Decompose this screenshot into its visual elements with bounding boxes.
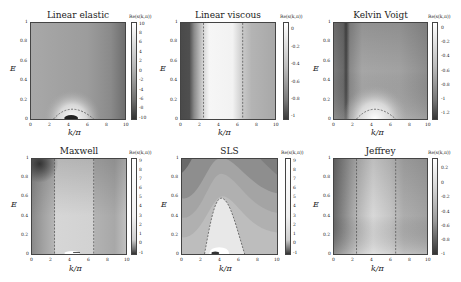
cbar-tick: 0.2 [441, 166, 448, 171]
colorbar-label: Re(s(k,π)) [428, 14, 451, 19]
x-tick: 8 [106, 258, 109, 263]
y-tick: 0.6 [170, 59, 177, 64]
x-tick: 10 [425, 123, 431, 128]
x-tick: 10 [273, 123, 279, 128]
y-tick: 0.4 [21, 214, 28, 219]
cbar-tick: 0 [139, 69, 142, 74]
y-tick: 0.8 [323, 175, 330, 180]
y-axis-label: E [161, 200, 167, 209]
y-tick: 0.4 [171, 214, 178, 219]
x-tick: 4 [68, 258, 71, 263]
x-tick: 8 [105, 123, 108, 128]
x-tick: 6 [237, 258, 240, 263]
y-tick: 0.4 [20, 78, 27, 83]
cbar-tick: 6 [139, 40, 142, 45]
cbar-tick: 1 [293, 232, 296, 237]
y-tick: 0 [328, 252, 331, 257]
x-tick: 10 [124, 258, 130, 263]
cbar-tick: 7 [139, 177, 142, 182]
y-tick: 0.2 [323, 233, 330, 238]
y-tick: 0 [25, 117, 28, 122]
colorbar [432, 22, 438, 120]
cbar-tick: 10 [139, 22, 145, 27]
y-tick: 0.2 [323, 98, 330, 103]
cbar-tick: 8 [293, 168, 296, 173]
cbar-tick: 9 [293, 159, 296, 164]
x-tick: 6 [86, 123, 89, 128]
colorbar-label: Re(s(k,π)) [129, 14, 152, 19]
heatmap-plot [333, 158, 428, 255]
x-tick: 8 [256, 258, 259, 263]
x-tick: 6 [236, 123, 239, 128]
y-tick: 0.6 [20, 59, 27, 64]
y-tick: 0.8 [323, 39, 330, 44]
y-tick: 0.4 [323, 78, 330, 83]
cbar-tick: 0 [441, 181, 444, 186]
y-tick: 1 [328, 156, 331, 161]
cbar-tick: -1 [441, 252, 445, 257]
panel-title: Linear viscous [180, 10, 276, 20]
x-axis-label: k/π [218, 128, 231, 137]
x-tick: 2 [49, 258, 52, 263]
cbar-tick: -0.6 [291, 80, 300, 85]
panel-title: Maxwell [31, 146, 127, 156]
y-tick: 0.8 [171, 175, 178, 180]
cbar-tick: -10 [139, 116, 146, 121]
cbar-tick: -1 [291, 114, 295, 119]
y-tick: 0.2 [20, 98, 27, 103]
colorbar-label: Re(s(k,π)) [428, 150, 451, 155]
y-tick: 0.6 [323, 59, 330, 64]
y-tick: 0.2 [170, 98, 177, 103]
panel-title: Jeffrey [333, 146, 428, 156]
x-tick: 8 [408, 258, 411, 263]
colorbar-label: Re(s(k,π)) [280, 14, 303, 19]
y-tick: 0.4 [323, 214, 330, 219]
cbar-tick: 5 [139, 195, 142, 200]
x-tick: 8 [255, 123, 258, 128]
x-tick: 4 [67, 123, 70, 128]
x-tick: 10 [425, 258, 431, 263]
colorbar [283, 22, 289, 120]
y-tick: 0.8 [170, 39, 177, 44]
y-tick: 0.6 [171, 194, 178, 199]
x-tick: 6 [389, 123, 392, 128]
cbar-tick: -0.2 [441, 40, 450, 45]
cbar-tick: 7 [293, 177, 296, 182]
y-tick: 0 [26, 252, 29, 257]
x-axis-label: k/π [219, 264, 232, 273]
cbar-tick: 8 [139, 31, 142, 36]
cbar-tick: -0.2 [291, 45, 300, 50]
y-tick: 1 [176, 156, 179, 161]
x-tick: 4 [218, 258, 221, 263]
y-tick: 1 [328, 20, 331, 25]
cbar-tick: -1 [139, 251, 143, 256]
heatmap-plot [333, 22, 428, 120]
colorbar [432, 158, 438, 255]
heatmap-plot [180, 22, 276, 120]
y-tick: 0.8 [20, 39, 27, 44]
y-axis-label: E [160, 64, 166, 73]
cbar-tick: 2 [139, 223, 142, 228]
x-tick: 10 [123, 123, 129, 128]
panel-title: SLS [181, 146, 278, 156]
cbar-tick: -0.8 [291, 97, 300, 102]
x-tick: 0 [332, 123, 335, 128]
cbar-tick: 4 [139, 204, 142, 209]
y-tick: 0.8 [21, 175, 28, 180]
cbar-tick: 3 [293, 214, 296, 219]
cbar-tick: 9 [139, 159, 142, 164]
y-tick: 1 [25, 20, 28, 25]
x-tick: 8 [408, 123, 411, 128]
colorbar [131, 158, 137, 255]
y-axis-label: E [10, 64, 16, 73]
x-axis-label: k/π [371, 128, 384, 137]
cbar-tick: -4 [139, 88, 143, 93]
cbar-tick: -0.4 [441, 54, 450, 59]
y-tick: 0.2 [21, 233, 28, 238]
x-tick: 4 [370, 123, 373, 128]
cbar-tick: 6 [293, 186, 296, 191]
x-tick: 2 [48, 123, 51, 128]
cbar-tick: 0 [441, 26, 444, 31]
cbar-tick: -0.6 [441, 224, 450, 229]
x-tick: 2 [199, 258, 202, 263]
